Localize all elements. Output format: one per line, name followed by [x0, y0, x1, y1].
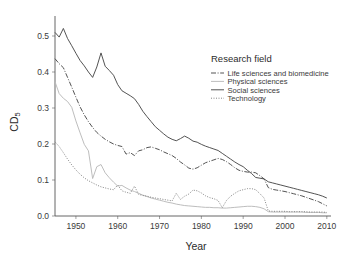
- line-chart-canvas: 0.00.10.20.30.40.5 195019601970198019902…: [0, 0, 347, 256]
- y-axis-title: CD5: [8, 112, 22, 131]
- series-line-2: [55, 28, 327, 198]
- data-series-group: [55, 28, 327, 212]
- series-line-1: [55, 82, 327, 213]
- x-tick-label: 1960: [108, 221, 127, 231]
- svg-text:CD5: CD5: [8, 112, 22, 131]
- legend: Research field Life sciences and biomedi…: [211, 53, 329, 103]
- x-tick-label: 2010: [317, 221, 336, 231]
- legend-items: Life sciences and biomedicinePhysical sc…: [211, 69, 329, 103]
- x-tick-label: 1990: [234, 221, 253, 231]
- chart-figure: 0.00.10.20.30.40.5 195019601970198019902…: [0, 0, 347, 256]
- x-axis-title: Year: [185, 240, 207, 252]
- y-tick-label: 0.5: [37, 31, 49, 41]
- y-tick-label: 0.1: [37, 175, 49, 185]
- legend-title: Research field: [211, 53, 272, 64]
- x-tick-label: 2000: [276, 221, 295, 231]
- x-tick-label: 1980: [192, 221, 211, 231]
- y-tick-label: 0.2: [37, 139, 49, 149]
- y-tick-label: 0.0: [37, 211, 49, 221]
- y-axis-title-main: CD: [8, 116, 20, 132]
- y-tick-label: 0.3: [37, 103, 49, 113]
- series-line-3: [55, 142, 327, 213]
- y-tick-label: 0.4: [37, 67, 49, 77]
- x-tick-label: 1970: [150, 221, 169, 231]
- x-tick-label: 1950: [66, 221, 85, 231]
- y-axis-title-subscript: 5: [13, 112, 22, 116]
- legend-label-3: Technology: [228, 94, 267, 103]
- y-axis-ticks: 0.00.10.20.30.40.5: [37, 31, 55, 221]
- x-axis-ticks: 1950196019701980199020002010: [66, 216, 336, 231]
